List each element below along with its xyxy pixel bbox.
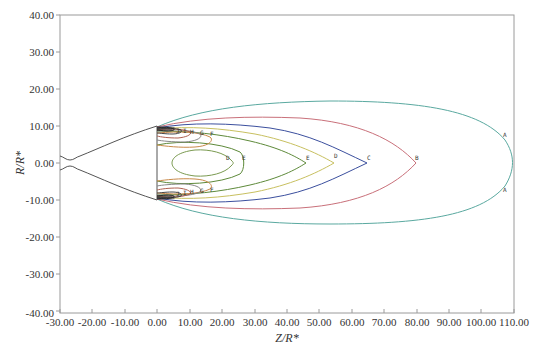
y-tick-label: 10.00	[29, 120, 54, 132]
x-tick-label: 60.00	[340, 316, 365, 328]
y-tick-label: 40.00	[29, 9, 54, 21]
x-tick-label: 80.00	[405, 316, 430, 328]
y-tick-label: -30.00	[26, 268, 55, 280]
x-tick-label: 50.00	[307, 316, 332, 328]
contours	[157, 101, 513, 224]
contour-chart: 40.00 30.00 20.00 10.00 0.00 -10.00 -20.…	[0, 0, 537, 355]
contour-label: I	[183, 127, 187, 134]
y-axis	[56, 15, 60, 311]
x-axis	[60, 309, 514, 313]
contour-label: E	[242, 154, 246, 161]
contour-label: J	[176, 127, 180, 134]
contour-label: J	[176, 190, 180, 197]
x-tick-labels: -30.00 -20.00 -10.00 0.00 10.00 20.00 30…	[46, 316, 530, 328]
contour-label: H	[190, 188, 194, 195]
y-tick-label: 0.00	[35, 157, 55, 169]
y-axis-title: R/R*	[13, 151, 27, 176]
contour-label: C	[367, 154, 371, 161]
contour-label: B	[415, 154, 419, 161]
x-tick-label: 20.00	[210, 316, 235, 328]
x-tick-label: 10.00	[178, 316, 203, 328]
x-tick-label: -20.00	[78, 316, 107, 328]
contour-D	[157, 128, 334, 199]
x-tick-label: 110.00	[499, 316, 529, 328]
x-tick-label: 90.00	[437, 316, 462, 328]
y-tick-label: -20.00	[26, 231, 55, 243]
plot-area-frame	[60, 15, 514, 313]
x-tick-label: 70.00	[372, 316, 397, 328]
y-tick-labels: 40.00 30.00 20.00 10.00 0.00 -10.00 -20.…	[26, 9, 55, 319]
contour-label: H	[190, 128, 194, 135]
contour-label: A	[503, 131, 507, 138]
y-tick-label: 20.00	[29, 83, 54, 95]
contour-label: D	[226, 154, 230, 161]
x-tick-label: 0.00	[147, 316, 167, 328]
contour-label: I	[183, 189, 187, 196]
y-tick-label: 30.00	[29, 46, 54, 58]
x-axis-title: Z/R*	[275, 331, 298, 345]
contour-label: F	[210, 130, 214, 137]
x-tick-label: 30.00	[243, 316, 268, 328]
x-tick-label: -10.00	[111, 316, 140, 328]
contour-label: F	[210, 186, 214, 193]
nozzle-wall	[60, 126, 157, 200]
x-tick-label: 100.00	[466, 316, 497, 328]
contour-label: D	[334, 152, 338, 159]
contour-E-core	[157, 142, 244, 183]
contour-label: G	[200, 187, 204, 194]
contour-D-core	[172, 150, 233, 176]
contour-E	[157, 131, 306, 195]
x-tick-label: 40.00	[275, 316, 300, 328]
contour-label: G	[200, 129, 204, 136]
contour-label: E	[306, 154, 310, 161]
contour-label: A	[503, 186, 507, 193]
y-tick-label: -10.00	[26, 194, 55, 206]
x-tick-label: -30.00	[46, 316, 75, 328]
contour-labels: A A B C D E E D J I H G F J I H G F	[176, 127, 507, 197]
